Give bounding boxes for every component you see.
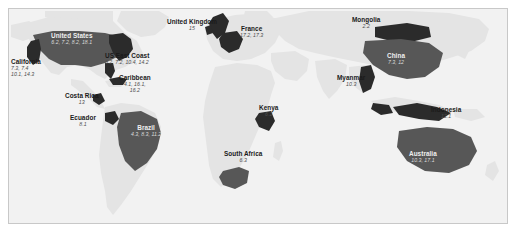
map-label-ecuador: Ecuador8.1	[70, 115, 96, 128]
map-label-values: 6.2, 7.2, 10.4, 14.2	[105, 60, 149, 66]
map-label-costa-rica: Costa Rica13	[65, 93, 99, 106]
map-label-australia: Australia10.3, 17.1	[409, 151, 437, 164]
map-label-brazil: Brazil4.3, 8.3, 11.2	[131, 125, 161, 138]
map-label-values: 2.2	[352, 24, 380, 30]
map-label-kenya: Kenya6.2	[259, 105, 278, 118]
map-label-values: 15	[167, 26, 217, 32]
map-label-values: 6.3	[224, 158, 262, 164]
map-label-values: 7.3, 12	[387, 60, 405, 66]
map-label-united-states: United States6.2, 7.2, 8.2, 18.1	[51, 33, 93, 46]
map-label-us-east-coast: US East Coast6.2, 7.2, 10.4, 14.2	[105, 53, 149, 66]
map-label-values: 8.1	[70, 122, 96, 128]
map-label-myanmar: Myanmar10.3	[337, 75, 365, 88]
map-label-values: 12.1	[431, 114, 461, 120]
map-label-south-africa: South Africa6.3	[224, 151, 262, 164]
map-label-france: France17.2, 17.3	[240, 26, 263, 39]
map-label-values: 6.2, 7.2, 8.2, 18.1	[51, 40, 93, 46]
map-label-values: 17.2, 17.3	[240, 33, 263, 39]
map-figure: United States6.2, 7.2, 8.2, 18.1Californ…	[0, 0, 514, 230]
map-label-indonesia: Indonesia12.1	[431, 107, 461, 120]
map-label-values: 4.3, 8.3, 11.2	[131, 132, 161, 138]
map-label-values-cont: 10.1, 14.3	[11, 72, 41, 78]
map-label-caribbean: Caribbean4.1, 16.1,16.2	[119, 75, 151, 93]
map-label-china: China7.3, 12	[387, 53, 405, 66]
map-label-values: 10.3	[337, 82, 365, 88]
map-label-united-kingdom: United Kingdom15	[167, 19, 217, 32]
map-label-values: 13	[65, 100, 99, 106]
map-label-mongolia: Mongolia2.2	[352, 17, 380, 30]
map-label-values: 10.3, 17.1	[409, 158, 437, 164]
map-label-california: California7.3, 7.410.1, 14.3	[11, 59, 41, 77]
map-label-values: 6.2	[259, 112, 278, 118]
map-canvas: United States6.2, 7.2, 8.2, 18.1Californ…	[8, 8, 508, 224]
map-label-values-cont: 16.2	[119, 88, 151, 94]
